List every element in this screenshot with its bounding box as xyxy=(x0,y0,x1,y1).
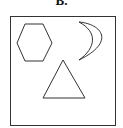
crescent-shape xyxy=(79,22,102,60)
triangle-shape xyxy=(43,60,85,98)
figure xyxy=(0,0,123,128)
frame xyxy=(11,17,116,126)
hexagon-shape xyxy=(17,24,52,61)
